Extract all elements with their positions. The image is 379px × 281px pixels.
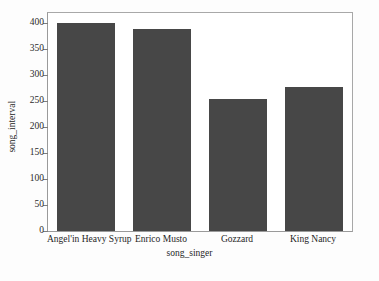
x-tick-label: Angel'in Heavy Syrup [47,235,123,245]
plot-area: 050100150200250300350400 [47,12,353,232]
bar [209,99,266,231]
y-tick-label: 350 [30,45,44,55]
y-tick-label: 150 [30,148,44,158]
y-tick-label: 250 [30,96,44,106]
bar [285,87,342,231]
x-tick-label: King Nancy [275,235,351,245]
x-tick-label: Enrico Musto [123,235,199,245]
y-tick-label: 0 [39,226,44,236]
x-axis-title: song_singer [0,249,379,259]
y-tick-label: 50 [35,200,45,210]
y-tick-label: 100 [30,174,44,184]
bar [57,23,114,231]
y-axis-title: song_interval [8,67,18,187]
bar [133,29,190,231]
bar-chart-figure: 050100150200250300350400 Angel'in Heavy … [0,0,379,281]
y-tick-label: 400 [30,19,44,29]
y-tick-label: 200 [30,122,44,132]
x-tick-label: Gozzard [199,235,275,245]
y-tick-label: 300 [30,71,44,81]
